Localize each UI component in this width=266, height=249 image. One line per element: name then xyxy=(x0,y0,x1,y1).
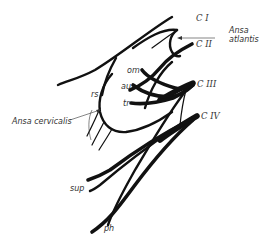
label-rs: rs xyxy=(91,90,98,99)
label-ansa-atlantis-1: Ansa xyxy=(228,26,249,35)
label-ansa-cervicalis: Ansa cervicalis xyxy=(11,117,72,126)
ansa-twig-2 xyxy=(92,122,104,145)
label-ansa-atlantis-2: atlantis xyxy=(229,35,259,44)
rs-bracket xyxy=(89,110,92,140)
cervical-plexus-diagram: C I C II C III C IV Ansa atlantis Ansa c… xyxy=(0,0,266,249)
label-c2: C II xyxy=(196,39,213,49)
ansa-twig-3 xyxy=(99,129,112,150)
label-ph: ph xyxy=(103,224,114,233)
arrowhead-ansa-atlantis xyxy=(177,36,182,40)
branch-sup-lower xyxy=(90,128,175,191)
label-tr: tr xyxy=(123,99,130,108)
label-sup: sup xyxy=(70,184,84,193)
label-c3: C III xyxy=(197,79,217,89)
label-c1: C I xyxy=(196,13,209,23)
label-om: om xyxy=(127,66,140,75)
label-c4: C IV xyxy=(201,111,221,121)
label-au: au xyxy=(121,82,131,91)
